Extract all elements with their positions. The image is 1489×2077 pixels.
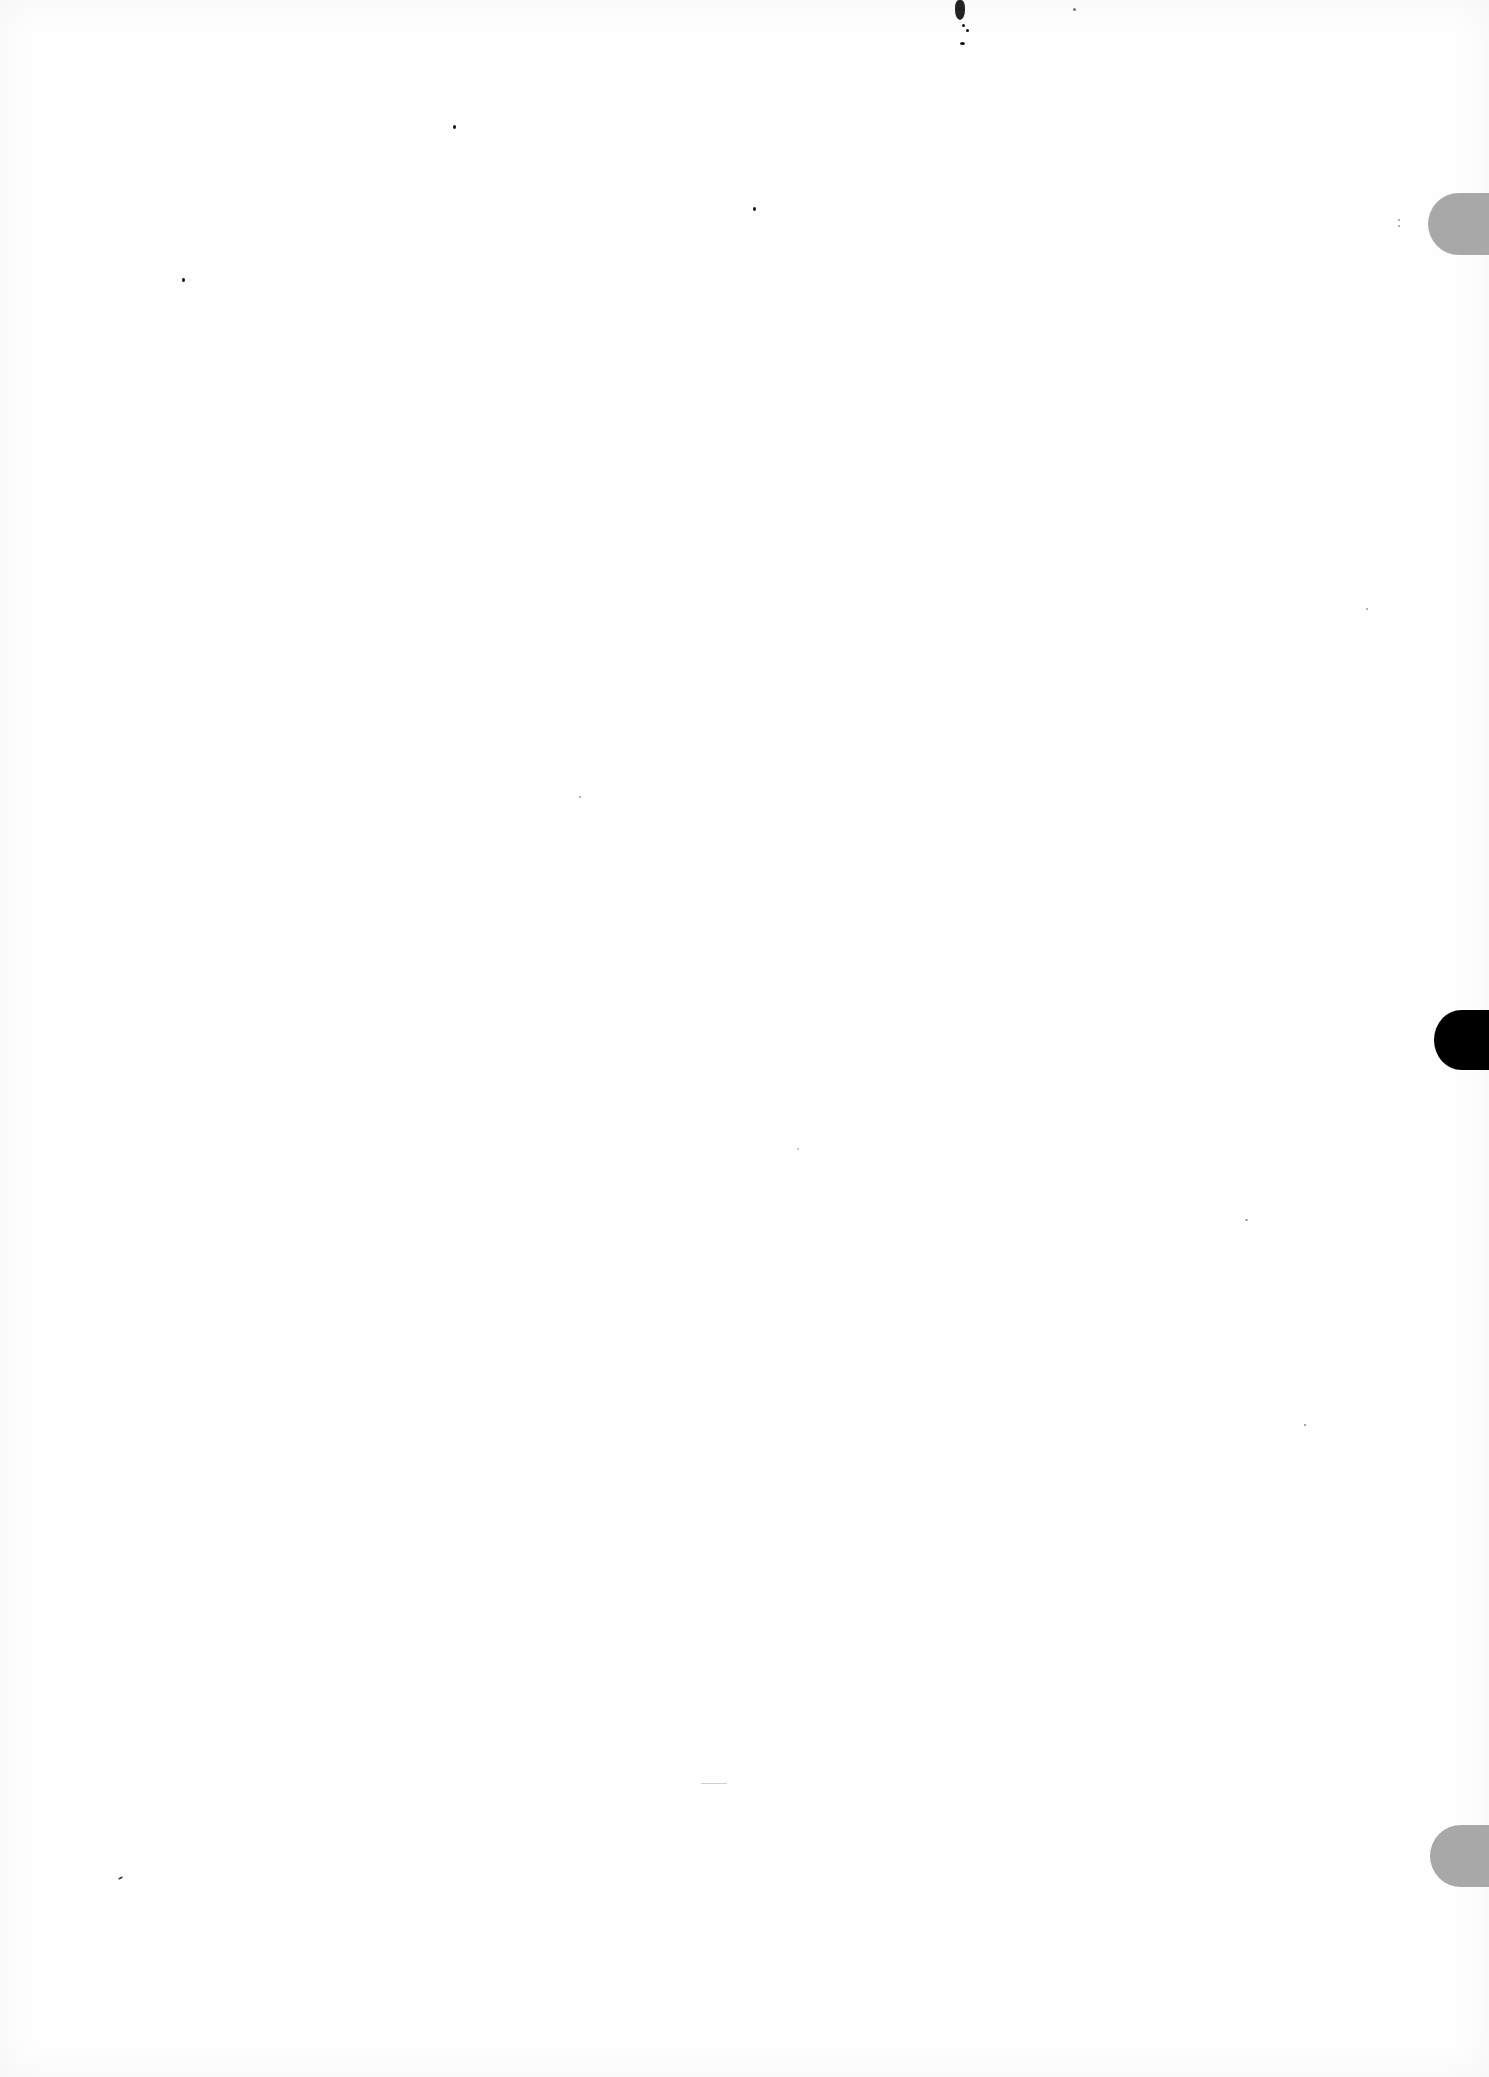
dust-speck xyxy=(797,1148,799,1150)
dust-speck xyxy=(1304,1424,1306,1426)
ink-speck xyxy=(960,42,965,45)
punch-hole-lower xyxy=(1430,1825,1489,1887)
faint-mark xyxy=(701,1783,727,1784)
ink-speck xyxy=(962,24,965,27)
ink-speck xyxy=(966,29,969,32)
scanned-blank-page xyxy=(0,0,1489,2077)
dust-speck xyxy=(1398,219,1400,221)
punch-hole-upper xyxy=(1428,193,1489,255)
dust-speck xyxy=(753,207,756,211)
dust-speck xyxy=(118,1876,123,1880)
dust-speck xyxy=(579,796,581,798)
dust-speck xyxy=(453,125,456,129)
ink-smudge-top xyxy=(955,0,965,20)
punch-hole-middle xyxy=(1434,1010,1489,1070)
dust-speck xyxy=(1366,608,1368,610)
ink-speck xyxy=(1073,8,1076,11)
dust-speck xyxy=(1398,225,1400,227)
dust-speck xyxy=(1245,1219,1248,1221)
dust-speck xyxy=(182,278,185,282)
